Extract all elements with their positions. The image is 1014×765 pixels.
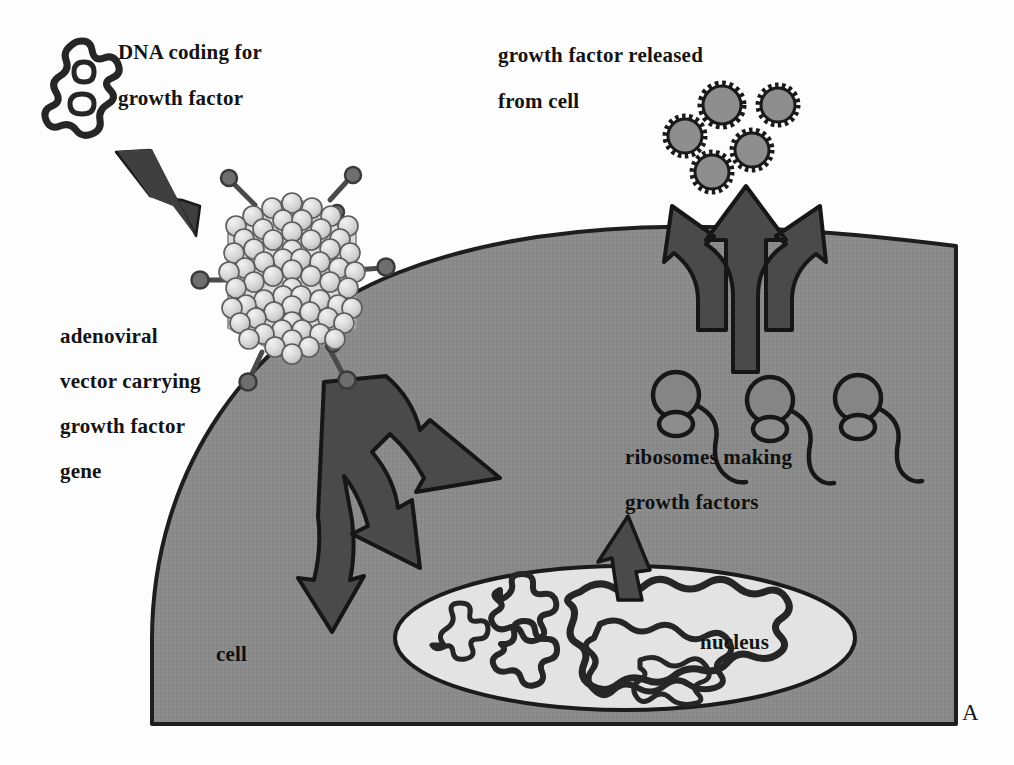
- label-adenoviral-vector-line1: adenoviral: [60, 316, 158, 356]
- growth-factor-group: [666, 84, 798, 192]
- label-adenoviral-vector-line4: gene: [60, 451, 102, 491]
- label-adenoviral-vector-line2: vector carrying: [60, 361, 201, 401]
- label-cell: cell: [216, 634, 247, 674]
- label-growth-factor-released-line1: growth factor released: [498, 35, 703, 75]
- growth-factor-particle-icon: [759, 86, 798, 125]
- growth-factor-particle-icon: [693, 153, 732, 192]
- growth-factor-particle-icon: [701, 84, 744, 127]
- label-nucleus: nucleus: [700, 622, 769, 662]
- panel-letter: A: [962, 700, 979, 726]
- dna-squiggle-icon: [45, 41, 119, 135]
- label-ribosomes-line1: ribosomes making: [625, 437, 792, 477]
- delivery-arrow-icon: [116, 149, 200, 238]
- label-growth-factor-released-line2: from cell: [498, 81, 579, 121]
- gene-therapy-figure: DNA coding for growth factor growth fact…: [0, 0, 1014, 765]
- label-adenoviral-vector-line3: growth factor: [60, 406, 185, 446]
- growth-factor-particle-icon: [666, 117, 705, 156]
- label-dna-coding-line2: growth factor: [118, 78, 243, 118]
- growth-factor-particle-icon: [733, 131, 772, 170]
- label-ribosomes-line2: growth factors: [625, 482, 759, 522]
- label-dna-coding-line1: DNA coding for: [118, 32, 262, 72]
